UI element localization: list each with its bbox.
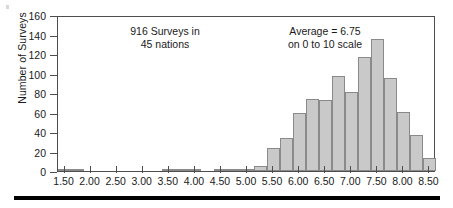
x-axis-tick (350, 166, 351, 173)
y-axis-tick-label: 120 (0, 50, 46, 61)
histogram-bar (319, 100, 332, 171)
x-axis-tick (428, 166, 429, 173)
y-axis-tick (50, 36, 57, 37)
histogram-bar (358, 57, 371, 171)
bottom-rule (14, 196, 440, 200)
annotation-survey-count: 916 Surveys in 45 nations (105, 25, 225, 51)
histogram-bar (397, 112, 410, 171)
y-axis-tick (50, 172, 57, 173)
y-axis-tick (50, 16, 57, 17)
x-axis-tick (142, 166, 143, 173)
y-axis-tick (50, 153, 57, 154)
y-axis-tick-label: 20 (0, 148, 46, 159)
histogram-bar (384, 78, 397, 171)
y-axis-tick-label: 80 (0, 89, 46, 100)
x-axis-tick (272, 166, 273, 173)
y-axis-tick-label: 160 (0, 11, 46, 22)
histogram-bar (293, 113, 306, 171)
x-axis-tick (376, 166, 377, 173)
annotation-average-line2: on 0 to 10 scale (265, 38, 385, 51)
histogram-bar (280, 138, 293, 171)
annotation-average-line1: Average = 6.75 (265, 25, 385, 38)
histogram-bar (410, 135, 423, 171)
y-axis-tick (50, 75, 57, 76)
x-axis-tick (324, 166, 325, 173)
y-axis-tick-label: 40 (0, 128, 46, 139)
y-axis-tick-label: 140 (0, 31, 46, 42)
x-axis-tick (116, 166, 117, 173)
x-axis-tick (194, 166, 195, 173)
histogram-bar (227, 169, 240, 171)
histogram-figure: Number of Surveys 020406080100120140160 … (0, 0, 453, 208)
y-axis-tick (50, 94, 57, 95)
y-axis-tick (50, 114, 57, 115)
x-axis-tick (298, 166, 299, 173)
y-axis-tick (50, 133, 57, 134)
annotation-average: Average = 6.75 on 0 to 10 scale (265, 25, 385, 51)
annotation-survey-count-line2: 45 nations (105, 38, 225, 51)
y-axis-tick-label: 60 (0, 109, 46, 120)
histogram-bar (332, 76, 345, 171)
annotation-survey-count-line1: 916 Surveys in (105, 25, 225, 38)
x-axis-tick (402, 166, 403, 173)
x-axis-tick-label: 8.50 (408, 176, 448, 187)
x-axis-tick (220, 166, 221, 173)
y-axis-tick-label: 100 (0, 70, 46, 81)
histogram-bar (71, 169, 84, 171)
histogram-bar (306, 99, 319, 171)
histogram-bar (254, 166, 267, 171)
histogram-bar (175, 169, 188, 171)
y-axis-tick-label: 0 (0, 167, 46, 178)
histogram-bar (423, 158, 436, 171)
x-axis-tick (168, 166, 169, 173)
x-axis-tick (64, 166, 65, 173)
scan-speck (6, 5, 9, 9)
histogram-bar (371, 39, 384, 171)
histogram-bar (345, 92, 358, 171)
histogram-bar (267, 148, 280, 171)
x-axis-tick (90, 166, 91, 173)
x-axis-tick (246, 166, 247, 173)
y-axis-tick (50, 55, 57, 56)
